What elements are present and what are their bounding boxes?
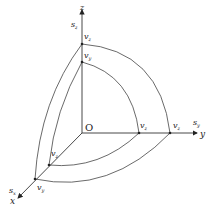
outer-arc-zy	[82, 44, 170, 133]
z-axis-label: z	[79, 3, 85, 12]
label-x-inner: vz	[51, 149, 59, 159]
label-z-inner: vy	[84, 51, 92, 62]
z-axis-s-label: sz	[71, 20, 78, 30]
label-y-outer: vz	[173, 121, 181, 131]
label-x-outer: vy	[37, 183, 45, 194]
outer-arc-zx	[35, 44, 82, 179]
point-y-inner	[138, 132, 141, 135]
ellipsoid-octant-diagram: O z sz y sy x sx vz vy vz vz vz vy	[0, 0, 216, 211]
origin-label: O	[85, 122, 93, 133]
point-y-outer	[169, 132, 172, 135]
inner-arc-xy	[49, 133, 139, 166]
label-y-inner: vz	[140, 121, 148, 131]
y-axis-s-label: sy	[193, 118, 200, 129]
x-axis-label: x	[10, 196, 15, 206]
point-x-outer	[34, 178, 37, 181]
label-z-outer: vz	[84, 32, 92, 42]
y-axis-label: y	[199, 129, 206, 139]
point-z-outer	[81, 43, 84, 46]
x-axis-s-label: sx	[9, 186, 16, 196]
point-z-inner	[81, 61, 84, 64]
point-x-inner	[48, 164, 51, 167]
